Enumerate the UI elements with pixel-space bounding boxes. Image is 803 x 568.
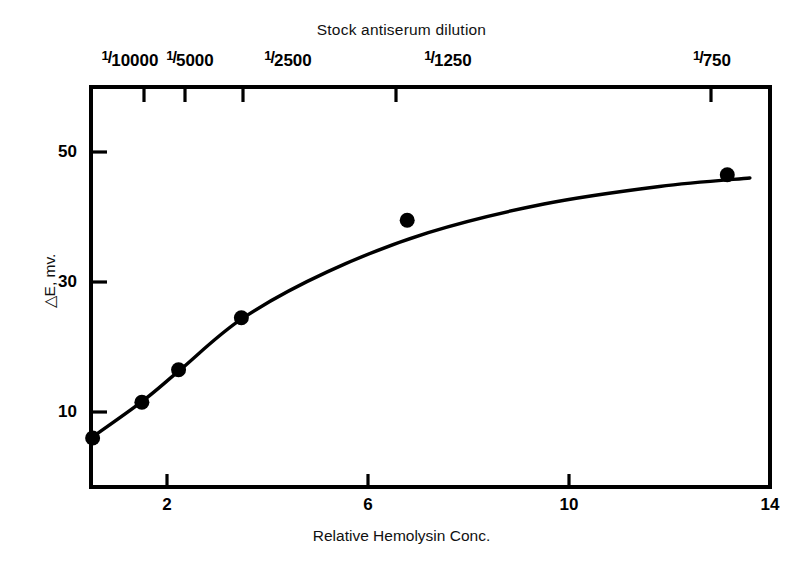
axis-ticks	[91, 87, 711, 487]
data-markers	[85, 167, 735, 445]
plot-area	[0, 0, 803, 568]
data-point-4	[400, 213, 415, 228]
y-axis-title: △E, mv.	[41, 221, 59, 341]
data-curve	[89, 178, 750, 439]
data-point-5	[720, 167, 735, 182]
chart-figure: Stock antiserum dilution 1/10000 1/5000 …	[0, 0, 803, 568]
axis-frame	[91, 87, 770, 487]
data-point-2	[171, 362, 186, 377]
x-axis-title: Relative Hemolysin Conc.	[0, 527, 803, 545]
data-point-1	[134, 395, 149, 410]
data-point-0	[85, 431, 100, 446]
data-point-3	[234, 310, 249, 325]
